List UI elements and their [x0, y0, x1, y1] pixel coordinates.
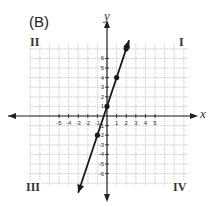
grid-lines	[30, 44, 187, 186]
y-tick-label: -5	[99, 161, 105, 167]
coordinate-plane: -5-4-3-2-112345654321-1-2-3-4-5-6	[0, 0, 214, 207]
y-tick-label: 6	[101, 55, 105, 61]
y-tick-label: -6	[99, 171, 105, 177]
y-axis-down-arrow-icon	[104, 194, 110, 202]
y-tick-label: 5	[101, 65, 105, 71]
y-tick-label: -4	[99, 151, 105, 157]
x-tick-label: 1	[115, 120, 119, 126]
y-tick-label: 1	[101, 103, 105, 109]
x-tick-label: 3	[134, 120, 138, 126]
data-point	[104, 104, 109, 109]
x-tick-label: -5	[56, 120, 62, 126]
x-tick-label: -4	[66, 120, 72, 126]
x-tick-label: 5	[153, 120, 157, 126]
x-tick-label: -2	[85, 120, 91, 126]
x-axis-right-arrow-icon	[190, 113, 198, 119]
quadrant-label-ii: II	[29, 36, 40, 48]
data-point	[114, 75, 119, 80]
y-axis-label: y	[104, 8, 110, 24]
y-tick-label: 3	[101, 84, 105, 90]
x-axis-label: x	[200, 106, 206, 122]
line-arrowhead-down-icon	[77, 184, 84, 193]
x-tick-label: -3	[76, 120, 82, 126]
y-tick-label: 4	[101, 75, 105, 81]
x-axis-left-arrow-icon	[8, 113, 16, 119]
panel-label: (B)	[29, 13, 49, 30]
quadrant-label-iii: III	[25, 181, 41, 193]
x-tick-label: 2	[125, 120, 129, 126]
quadrant-label-iv: IV	[172, 181, 187, 193]
x-tick-label: 4	[144, 120, 148, 126]
y-tick-label: 2	[101, 94, 105, 100]
quadrant-label-i: I	[178, 36, 185, 48]
y-tick-label: -3	[99, 142, 105, 148]
data-point	[95, 133, 100, 138]
data-point	[124, 46, 129, 51]
